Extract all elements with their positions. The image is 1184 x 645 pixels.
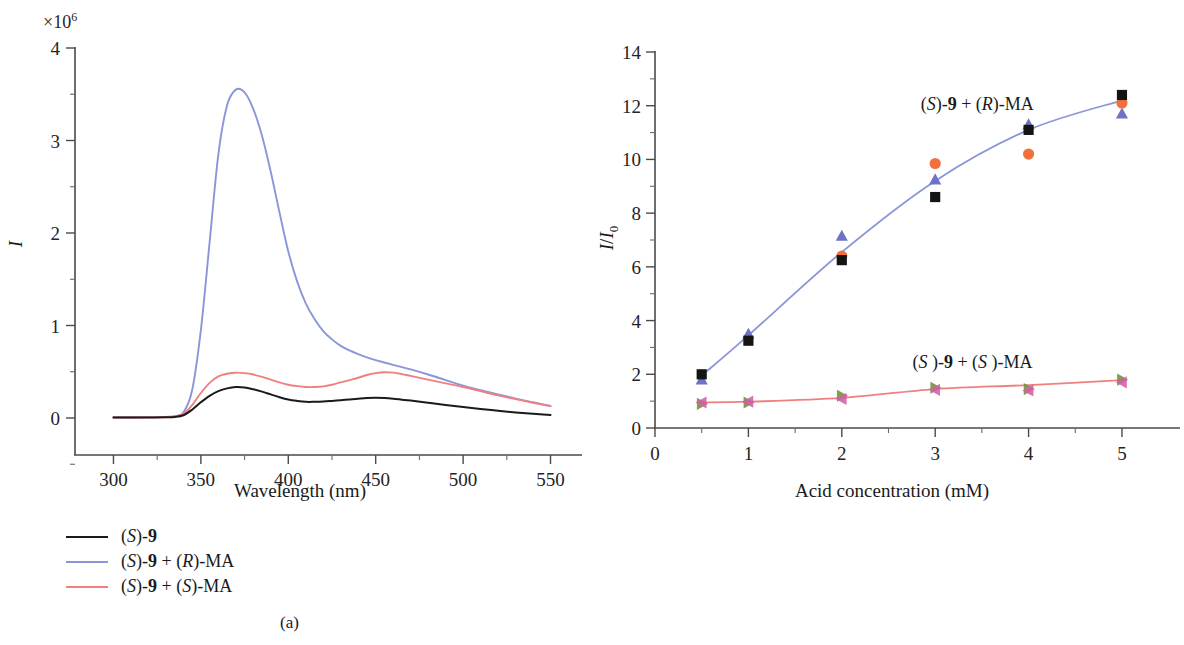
legend-label-s9: (S)-9 (121, 526, 157, 547)
panel-b-marker-0-0 (697, 369, 707, 379)
panel-a-xtick-500: 500 (449, 469, 478, 490)
panel-b-marker-0-1 (743, 336, 753, 346)
legend-label-s9-s-ma: (S)-9 + (S)-MA (121, 576, 232, 597)
panel-b-ytick-10: 10 (622, 149, 641, 170)
legend-item-0[interactable]: (S)-9 (66, 524, 234, 549)
panel-b-x-axis-title: Acid concentration (mM) (795, 480, 989, 502)
panel-b-annotation-1: (S )-9 + (S )-MA (912, 352, 1032, 373)
panel-a-xtick-350: 350 (187, 469, 216, 490)
legend-item-1[interactable]: (S)-9 + (R)-MA (66, 549, 234, 574)
panel-b-ticks (646, 52, 1122, 437)
panel-b-ytick-12: 12 (622, 96, 641, 117)
panel-a-xtick-300: 300 (99, 469, 128, 490)
panel-b-ytick-2: 2 (632, 364, 642, 385)
panel-a-curve-1 (113, 89, 550, 418)
panel-a-ytick-3: 3 (51, 131, 61, 152)
panel-b-titration-plot: 02468101214012345 (S)-9 + (R)-MA(S )-9 +… (592, 0, 1184, 645)
panel-b-ytick-6: 6 (632, 257, 642, 278)
panel-a-ytick-4: 4 (51, 38, 61, 59)
panel-a-emission-spectra: 01234300350400450500550 ×106 I Wavelengt… (0, 0, 592, 645)
panel-b-xtick-5: 5 (1117, 443, 1127, 464)
panel-a-x-axis-title: Wavelength (nm) (234, 480, 366, 502)
panel-b-marker-0-5 (1117, 90, 1127, 100)
panel-b-xtick-1: 1 (744, 443, 754, 464)
panel-b-xtick-0: 0 (650, 443, 660, 464)
panel-b-marker-1-4 (1023, 148, 1034, 159)
panel-a-legend: (S)-9 (S)-9 + (R)-MA (S)-9 + (S)-MA (66, 524, 234, 599)
panel-a-ytick-2: 2 (51, 223, 61, 244)
panel-b-ytick-0: 0 (632, 418, 642, 439)
panel-a-curves (113, 89, 550, 418)
legend-swatch-s9 (66, 536, 108, 538)
panel-a-caption: (a) (280, 613, 299, 633)
figure-container: 01234300350400450500550 ×106 I Wavelengt… (0, 0, 1184, 645)
legend-swatch-s9-r-ma (66, 561, 108, 563)
panel-a-ytick-1: 1 (51, 316, 61, 337)
panel-b-marker-0-3 (930, 192, 940, 202)
panel-a-xtick-550: 550 (536, 469, 565, 490)
panel-b-ytick-14: 14 (622, 42, 642, 63)
panel-b-marker-2-5 (1116, 107, 1128, 118)
panel-b-svg: 02468101214012345 (S)-9 + (R)-MA(S )-9 +… (592, 0, 1184, 510)
panel-b-annotation-0: (S)-9 + (R)-MA (921, 94, 1034, 115)
panel-a-axes (74, 47, 582, 455)
panel-a-y-axis-title: I (5, 239, 26, 248)
panel-b-xtick-4: 4 (1024, 443, 1034, 464)
panel-b-y-axis-title: I/I0 (596, 226, 621, 251)
panel-b-marker-2-2 (836, 230, 848, 241)
panel-b-marker-1-3 (930, 158, 941, 169)
panel-b-marker-0-4 (1023, 125, 1033, 135)
panel-b-xtick-3: 3 (930, 443, 940, 464)
panel-b-ytick-4: 4 (632, 311, 642, 332)
legend-item-2[interactable]: (S)-9 + (S)-MA (66, 574, 234, 599)
panel-a-curve-2 (113, 372, 550, 417)
panel-a-ytick-0: 0 (51, 408, 61, 429)
panel-b-fit-1 (702, 380, 1122, 402)
legend-label-s9-r-ma: (S)-9 + (R)-MA (121, 551, 234, 572)
legend-swatch-s9-s-ma (66, 586, 108, 588)
panel-a-tick-labels: 01234300350400450500550 (51, 38, 565, 490)
panel-a-svg: 01234300350400450500550 ×106 I Wavelengt… (0, 0, 592, 510)
panel-b-marker-0-2 (837, 255, 847, 265)
panel-b-ytick-8: 8 (632, 203, 642, 224)
panel-b-xtick-2: 2 (837, 443, 847, 464)
panel-a-multiplier-label: ×106 (43, 10, 77, 32)
panel-b-fit-0 (702, 100, 1122, 375)
